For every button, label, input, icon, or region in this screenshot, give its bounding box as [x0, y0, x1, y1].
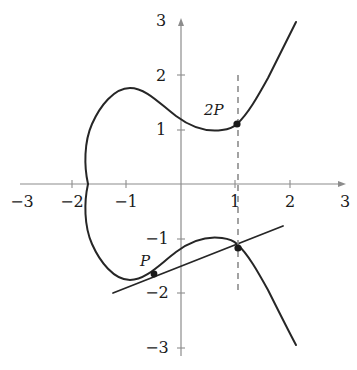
- y-tick-label-1: 1: [150, 122, 172, 138]
- point-marker-negative-2p: [234, 244, 241, 251]
- elliptic-curve-upper-branch: [85, 22, 296, 184]
- point-label-p: P: [140, 254, 150, 269]
- y-tick-label-2: 2: [150, 68, 172, 84]
- point-marker-p: [151, 271, 158, 278]
- y-tick-label-minus3: −3: [142, 340, 172, 356]
- elliptic-curve-figure: −3 −2 −1 1 2 3 3 2 1 −1 −2 −3 P 2P: [0, 0, 357, 370]
- x-tick-label-1: 1: [224, 194, 246, 210]
- y-axis-arrow-icon: [178, 18, 184, 26]
- x-axis: [20, 180, 346, 188]
- plot-canvas: [0, 0, 357, 370]
- point-marker-2p: [233, 120, 240, 127]
- x-tick-label-3: 3: [334, 194, 356, 210]
- tangent-line-at-P: [113, 226, 283, 293]
- x-tick-label-minus1: −1: [112, 194, 140, 210]
- x-tick-label-minus3: −3: [8, 194, 36, 210]
- y-tick-label-minus2: −2: [142, 285, 172, 301]
- y-tick-label-minus1: −1: [142, 231, 172, 247]
- x-axis-arrow-icon: [338, 181, 346, 187]
- x-tick-label-2: 2: [279, 194, 301, 210]
- point-label-2p: 2P: [204, 103, 224, 118]
- x-tick-label-minus2: −2: [58, 194, 86, 210]
- y-axis: [177, 18, 185, 356]
- y-tick-label-3: 3: [150, 13, 172, 29]
